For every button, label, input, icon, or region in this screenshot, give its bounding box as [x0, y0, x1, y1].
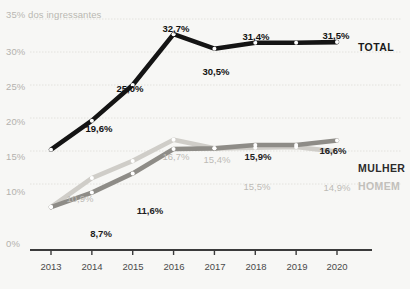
value-label-total-2018: 31,4% [243, 32, 270, 42]
value-label-homem-2020: 14,9% [324, 183, 351, 193]
value-label-homem-2014: 10,9% [67, 194, 94, 204]
value-label-homem-2017: 15,4% [204, 155, 231, 165]
y-axis-label-35: 35% dos ingressantes [6, 10, 101, 20]
y-axis-label-15: 15% [6, 152, 25, 162]
value-label-total-2016: 32,7% [163, 24, 190, 34]
legend-label-homem: HOMEM [358, 181, 400, 192]
x-axis-label-2017: 2017 [204, 262, 225, 272]
value-label-homem-2018: 15,5% [244, 182, 271, 192]
x-axis-label-2015: 2015 [122, 262, 143, 272]
x-axis-label-2020: 2020 [326, 262, 347, 272]
value-label-mulher-2020: 16,6% [320, 146, 347, 156]
y-axis-label-25: 25% [6, 82, 25, 92]
x-axis-label-2013: 2013 [40, 262, 61, 272]
value-label-total-2015: 25,0% [117, 84, 144, 94]
y-axis-label-30: 30% [6, 47, 25, 57]
value-label-total-2017: 30,5% [203, 67, 230, 77]
value-label-homem-2016: 16,7% [163, 152, 190, 162]
value-label-mulher-2014: 8,7% [90, 229, 112, 239]
chart-container: 35% dos ingressantes 30% 25% 20% 15% 10%… [0, 0, 410, 289]
legend-label-total: TOTAL [358, 42, 394, 53]
x-axis-label-2014: 2014 [81, 262, 102, 272]
x-axis-label-2019: 2019 [286, 262, 307, 272]
x-axis-label-2018: 2018 [245, 262, 266, 272]
value-label-total-2020: 31,5% [323, 31, 350, 41]
x-axis-label-2016: 2016 [163, 262, 184, 272]
value-label-mulher-2018: 15,9% [245, 152, 272, 162]
y-axis-label-20: 20% [6, 117, 25, 127]
y-axis-label-0: 0% [6, 239, 20, 249]
chart-plot-area [0, 0, 410, 289]
value-label-mulher-2015: 11,6% [137, 206, 163, 216]
y-axis-label-10: 10% [6, 187, 25, 197]
value-label-total-2014: 19,6% [86, 124, 113, 134]
legend-label-mulher: MULHER [358, 163, 405, 174]
